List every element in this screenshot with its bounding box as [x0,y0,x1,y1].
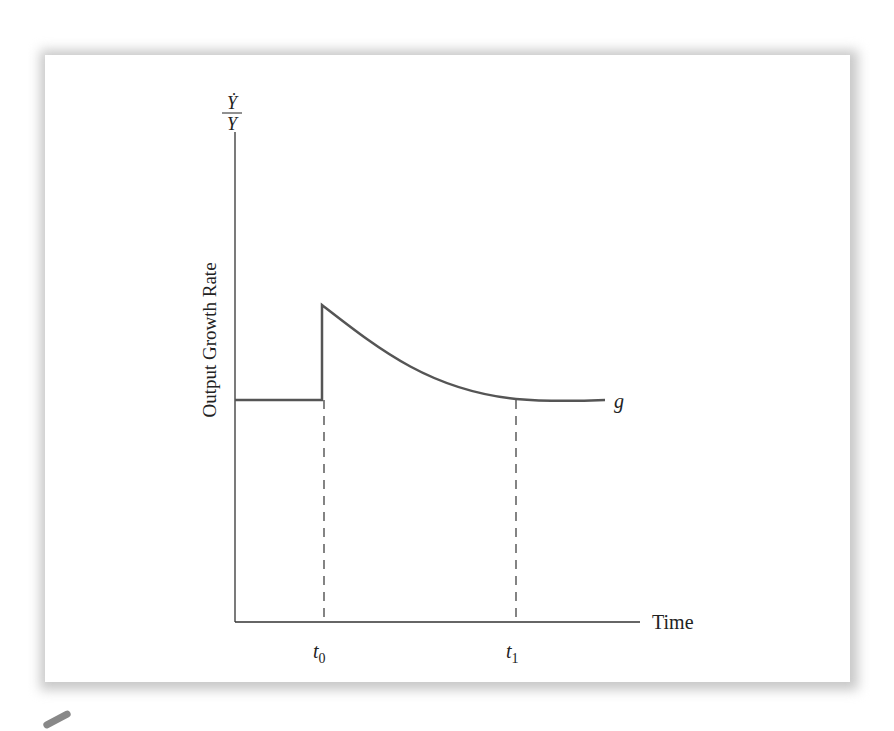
chart-svg: Ẏ Y Output Growth Rate Time t0 t1 g [0,0,894,731]
g-label: g [614,390,624,413]
growth-rate-curve [235,305,605,401]
t1-label: t1 [506,640,519,666]
t0-label: t0 [313,640,326,666]
y-axis-title: Output Growth Rate [199,262,220,417]
x-axis-title: Time [652,611,694,633]
y-denominator-label: Y [227,114,239,134]
y-dot-label: Ẏ [227,93,239,113]
